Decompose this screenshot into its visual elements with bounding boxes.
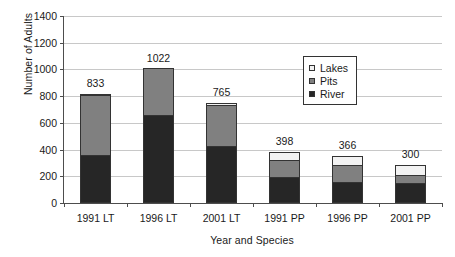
bar-group[interactable]: 1022 (143, 16, 174, 203)
y-tick-label: 400 (39, 144, 57, 156)
plot-area: 0200400600800100012001400 83310227653983… (63, 16, 442, 204)
legend-label: River (320, 88, 345, 100)
y-axis-title: Number of Adults (22, 0, 34, 134)
y-tick-label: 1000 (34, 63, 57, 75)
bar-total-label: 833 (87, 77, 105, 89)
x-tick-mark (316, 203, 317, 207)
legend-item-pits[interactable]: Pits (309, 74, 348, 87)
bar-segment-river[interactable] (80, 155, 111, 203)
bar-segment-river[interactable] (332, 182, 363, 203)
y-tick-label: 600 (39, 117, 57, 129)
bar-series-container: 8331022765398366300 (64, 16, 442, 203)
bar-group[interactable]: 366 (332, 16, 363, 203)
bar-group[interactable]: 765 (206, 16, 237, 203)
chart-legend: LakesPitsRiver (303, 56, 357, 105)
legend-swatch-icon (309, 78, 315, 84)
legend-swatch-icon (309, 91, 315, 97)
bar-chart-figure: Number of Adults Year and Species 020040… (0, 0, 455, 257)
y-tick-label: 200 (39, 170, 57, 182)
x-tick-label: 1996 LT (140, 212, 178, 224)
x-tick-label: 2001 LT (203, 212, 241, 224)
bar-segment-pits[interactable] (143, 68, 174, 115)
bar-segment-river[interactable] (143, 115, 174, 203)
bar-stack (395, 165, 426, 203)
bar-segment-river[interactable] (206, 146, 237, 203)
x-tick-label: 1996 PP (327, 212, 367, 224)
y-tick-label: 1400 (34, 10, 57, 22)
bar-group[interactable]: 398 (269, 16, 300, 203)
x-tick-mark (442, 203, 443, 207)
x-tick-mark (190, 203, 191, 207)
y-tick-label: 1200 (34, 37, 57, 49)
x-axis-title: Year and Species (63, 234, 441, 246)
bar-stack (269, 152, 300, 203)
bar-total-label: 765 (213, 86, 231, 98)
bar-segment-pits[interactable] (206, 105, 237, 147)
x-tick-label: 2001 PP (390, 212, 430, 224)
x-tick-label: 1991 PP (264, 212, 304, 224)
bar-stack (206, 103, 237, 203)
bar-total-label: 398 (276, 135, 294, 147)
bar-total-label: 300 (402, 148, 420, 160)
bar-segment-pits[interactable] (269, 160, 300, 178)
bar-segment-pits[interactable] (80, 95, 111, 156)
bar-total-label: 366 (339, 139, 357, 151)
legend-item-river[interactable]: River (309, 87, 348, 100)
legend-label: Lakes (320, 62, 348, 74)
bar-segment-river[interactable] (395, 183, 426, 203)
x-tick-mark (127, 203, 128, 207)
legend-item-lakes[interactable]: Lakes (309, 61, 348, 74)
bar-segment-pits[interactable] (332, 165, 363, 183)
bar-segment-river[interactable] (269, 177, 300, 203)
bar-stack (80, 94, 111, 203)
bar-total-label: 1022 (147, 52, 170, 64)
bar-group[interactable]: 300 (395, 16, 426, 203)
y-tick-label: 0 (51, 197, 57, 209)
legend-swatch-icon (309, 65, 315, 71)
legend-label: Pits (320, 75, 338, 87)
y-tick-label: 800 (39, 90, 57, 102)
bar-stack (332, 156, 363, 203)
bar-stack (143, 68, 174, 203)
x-tick-mark (379, 203, 380, 207)
x-tick-mark (64, 203, 65, 207)
x-tick-label: 1991 LT (77, 212, 115, 224)
bar-group[interactable]: 833 (80, 16, 111, 203)
x-tick-mark (253, 203, 254, 207)
